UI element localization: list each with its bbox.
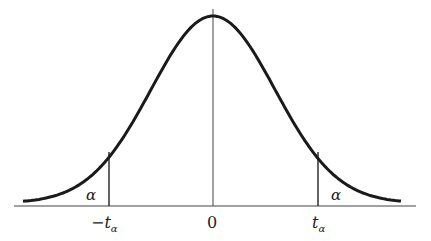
alpha-right-label: α — [331, 186, 341, 204]
bell-curve — [23, 16, 401, 201]
neg-t-alpha-label: −tα — [91, 213, 118, 234]
alpha-left-label: α — [86, 186, 96, 204]
zero-label: 0 — [207, 213, 217, 232]
pos-t-alpha-label: tα — [312, 213, 325, 234]
diagram-canvas: α α −tα 0 tα — [0, 0, 431, 241]
